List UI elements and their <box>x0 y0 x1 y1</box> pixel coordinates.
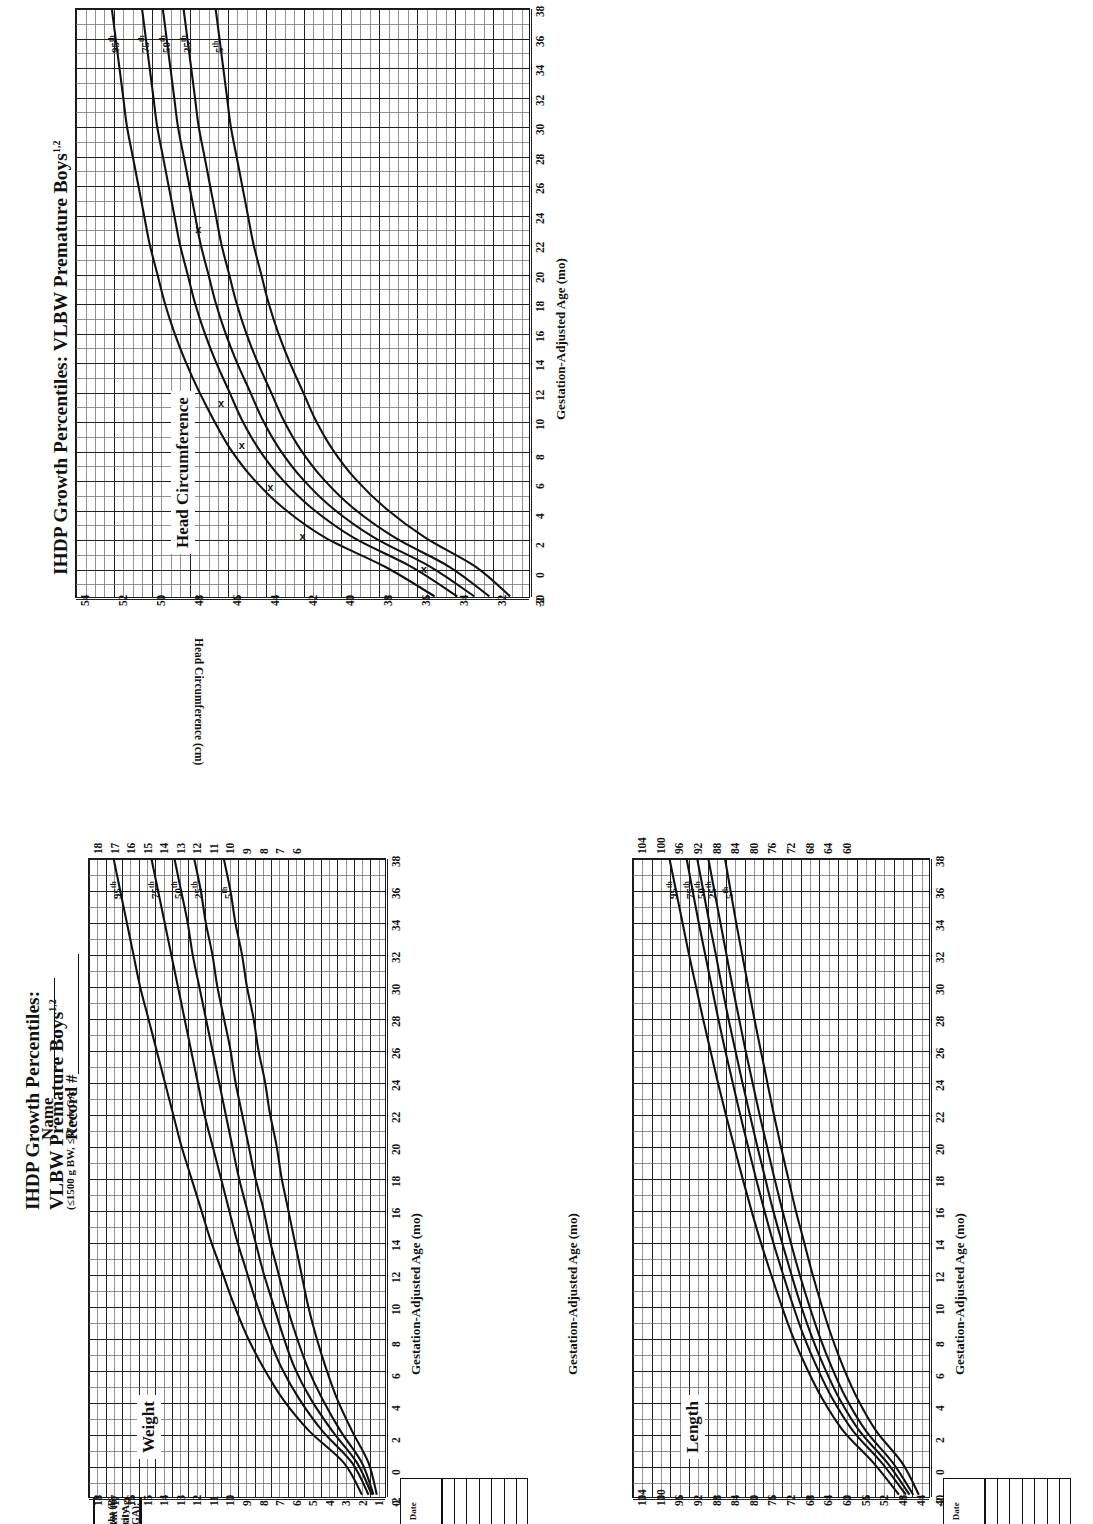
tick-ln-age-28: 28 <box>934 1016 946 1027</box>
weight-table-row-line[interactable] <box>504 1479 505 1524</box>
length-table-row-line[interactable] <box>1047 1479 1048 1524</box>
hc-x-axis-label: Gestation-Adjusted Age (mo) <box>553 258 569 420</box>
weight-panel: IHDP Growth Percentiles: VLBW Premature … <box>0 700 545 1524</box>
tick-wt-value-7: 7 <box>274 1500 286 1506</box>
tick-hc-age-38: 38 <box>534 6 546 17</box>
tick-ln-value-top-84: 84 <box>729 843 741 854</box>
tick-hc-value-34: 34 <box>458 595 470 606</box>
percentile-flag-50: 50th <box>158 35 172 53</box>
tick-wt-age-26: 26 <box>390 1048 402 1059</box>
weight-percentile-curves <box>89 859 385 1495</box>
weight-table-row-line[interactable] <box>491 1479 492 1524</box>
tick-ln-value-top-96: 96 <box>673 843 685 854</box>
tick-wt-value-17: 17 <box>109 1495 121 1506</box>
percentile-curve-50th <box>163 9 474 596</box>
tick-ln-age-30: 30 <box>934 984 946 995</box>
weight-inner-title: Weight <box>137 1395 161 1459</box>
percentile-curve-75th <box>151 859 368 1495</box>
plotted-point-4: x <box>218 397 224 409</box>
tick-ln-age-12: 12 <box>934 1272 946 1283</box>
tick-wt-age-14: 14 <box>390 1240 402 1251</box>
tick-hc-value-48: 48 <box>193 595 205 606</box>
plotted-point-3: x <box>239 439 245 451</box>
percentile-curve-50th <box>175 859 372 1495</box>
tick-ln-value-top-104: 104 <box>636 837 648 854</box>
tick-ln-age-10: 10 <box>934 1304 946 1315</box>
tick-wt-value-10: 10 <box>224 1495 236 1506</box>
length-x-axis-label: Gestation-Adjusted Age (mo) <box>952 1213 968 1375</box>
name-input-line[interactable] <box>38 978 55 1098</box>
tick-wt-value-14: 14 <box>158 1495 170 1506</box>
tick-ln-value-104: 104 <box>636 1489 648 1506</box>
tick-ln-value-52: 52 <box>878 1495 890 1506</box>
plotted-point-0: x <box>421 563 427 575</box>
length-data-entry-table[interactable]: DatePostnatalAge(mo)Gestation-Adjusted A… <box>943 1478 1071 1524</box>
weight-table-header-separator <box>441 1479 443 1524</box>
weight-table-header-0: Date <box>408 1475 418 1524</box>
weight-table-row-line[interactable] <box>516 1479 517 1524</box>
percentile-flag-25: 25th <box>190 881 204 899</box>
tick-wt-value-12: 12 <box>191 1495 203 1506</box>
percentile-flag-5: 5th <box>220 887 234 899</box>
percentile-flag-50: 50th <box>170 881 184 899</box>
tick-ln-age-20: 20 <box>934 1144 946 1155</box>
record-field[interactable]: Record # <box>62 954 82 1140</box>
percentile-curve-5th <box>216 9 510 596</box>
length-table-row-line[interactable] <box>1034 1479 1035 1524</box>
tick-ln-value-76: 76 <box>766 1495 778 1506</box>
tick-hc-age-20: 20 <box>534 271 546 282</box>
tick-wt-value-top-8: 8 <box>258 848 270 854</box>
tick-hc-age-34: 34 <box>534 65 546 76</box>
name-field[interactable]: Name <box>38 978 58 1140</box>
tick-hc-age-2: 2 <box>534 542 546 548</box>
weight-table-row-line[interactable] <box>479 1479 480 1524</box>
length-table-row-line[interactable] <box>1059 1479 1060 1524</box>
tick-wt-value-top-11: 11 <box>208 844 220 854</box>
tick-hc-age--2: -2 <box>534 598 546 607</box>
tick-wt-value-top-15: 15 <box>142 843 154 854</box>
tick-hc-value-52: 52 <box>117 595 129 606</box>
tick-wt-age-22: 22 <box>390 1112 402 1123</box>
weight-data-entry-table[interactable]: DatePostnatalAge(mo)Gestation-Adjusted A… <box>400 1478 528 1524</box>
tick-ln-value-56: 56 <box>860 1495 872 1506</box>
tick-ln-value-top-92: 92 <box>692 843 704 854</box>
tick-wt-value-9: 9 <box>241 1500 253 1506</box>
tick-hc-age-14: 14 <box>534 360 546 371</box>
length-table-row-line[interactable] <box>1022 1479 1023 1524</box>
record-input-line[interactable] <box>62 954 79 1074</box>
length-table-header-0: Date <box>951 1475 961 1524</box>
hc-inner-title: Head Circumference <box>171 391 195 554</box>
hc-chart-title: IHDP Growth Percentiles: VLBW Premature … <box>50 141 72 575</box>
length-table-row-line[interactable] <box>1009 1479 1010 1524</box>
tick-ln-age-8: 8 <box>934 1341 946 1347</box>
tick-ln-value-72: 72 <box>785 1495 797 1506</box>
tick-hc-age-32: 32 <box>534 94 546 105</box>
tick-wt-value-15: 15 <box>142 1495 154 1506</box>
tick-hc-age-10: 10 <box>534 419 546 430</box>
tick-hc-value-44: 44 <box>269 595 281 606</box>
tick-ln-age-16: 16 <box>934 1208 946 1219</box>
tick-wt-age-16: 16 <box>390 1208 402 1219</box>
length-table-header-separator <box>984 1479 986 1524</box>
tick-ln-age-14: 14 <box>934 1240 946 1251</box>
tick-ln-value-60: 60 <box>841 1495 853 1506</box>
tick-hc-age-30: 30 <box>534 124 546 135</box>
tick-wt-value-top-9: 9 <box>241 848 253 854</box>
tick-ln-value-80: 80 <box>748 1495 760 1506</box>
tick-wt-value-top-13: 13 <box>175 843 187 854</box>
percentile-flag-5: 5th <box>721 887 735 899</box>
tick-ln-value-top-100: 100 <box>655 837 667 854</box>
tick-hc-value-50: 50 <box>155 595 167 606</box>
tick-wt-age-38: 38 <box>390 856 402 867</box>
tick-wt-age-8: 8 <box>390 1341 402 1347</box>
tick-hc-value-38: 38 <box>382 595 394 606</box>
tick-ln-age-2: 2 <box>934 1437 946 1443</box>
length-table-row-line[interactable] <box>997 1479 998 1524</box>
hc-plot-area: xxxxxx 95th75th50th25th5th Head Circumfe… <box>75 8 530 598</box>
tick-wt-age-10: 10 <box>390 1304 402 1315</box>
weight-table-row-line[interactable] <box>466 1479 467 1524</box>
tick-hc-age-0: 0 <box>534 572 546 578</box>
weight-table-row-line[interactable] <box>454 1479 455 1524</box>
percentile-flag-75: 75th <box>137 35 151 53</box>
tick-ln-value-96: 96 <box>673 1495 685 1506</box>
